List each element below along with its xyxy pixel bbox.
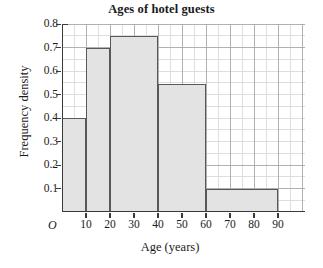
x-tick-label: 30 — [121, 219, 147, 231]
y-tick-label: 0.2 — [28, 159, 58, 171]
x-tick-mark — [157, 213, 158, 218]
x-axis-title: Age (years) — [62, 240, 278, 255]
x-tick-label: 40 — [145, 219, 171, 231]
x-tick-mark — [253, 213, 254, 218]
x-tick-label: 70 — [217, 219, 243, 231]
y-tick-label: 0.6 — [28, 65, 58, 77]
y-tick-label: 0.1 — [28, 183, 58, 195]
y-tick-mark — [56, 24, 61, 25]
plot-area — [62, 24, 305, 212]
x-tick-label: 50 — [169, 219, 195, 231]
x-tick-mark — [133, 213, 134, 218]
x-tick-mark — [229, 213, 230, 218]
x-tick-label: 80 — [241, 219, 267, 231]
y-tick-mark — [56, 188, 61, 189]
x-tick-mark — [109, 213, 110, 218]
x-tick-label: 60 — [193, 219, 219, 231]
y-tick-mark — [56, 118, 61, 119]
y-tick-mark — [56, 47, 61, 48]
x-tick-label: 90 — [265, 219, 291, 231]
y-tick-mark — [56, 71, 61, 72]
y-tick-label: 0.8 — [28, 18, 58, 30]
histogram-figure: Ages of hotel guests 0.10.20.30.40.50.60… — [0, 0, 323, 268]
y-tick-mark — [56, 165, 61, 166]
x-tick-label: 10 — [73, 219, 99, 231]
x-tick-mark — [205, 213, 206, 218]
y-tick-label: 0.4 — [28, 112, 58, 124]
axes-lines — [62, 24, 305, 212]
x-tick-label: 20 — [97, 219, 123, 231]
y-tick-label: 0.7 — [28, 42, 58, 54]
y-tick-mark — [56, 94, 61, 95]
x-tick-mark — [85, 213, 86, 218]
y-tick-label: 0.3 — [28, 136, 58, 148]
origin-label: O — [48, 218, 57, 233]
x-tick-mark — [277, 213, 278, 218]
y-tick-label: 0.5 — [28, 89, 58, 101]
y-tick-mark — [56, 141, 61, 142]
y-axis-title: Frequency density — [17, 32, 32, 192]
x-tick-mark — [181, 213, 182, 218]
